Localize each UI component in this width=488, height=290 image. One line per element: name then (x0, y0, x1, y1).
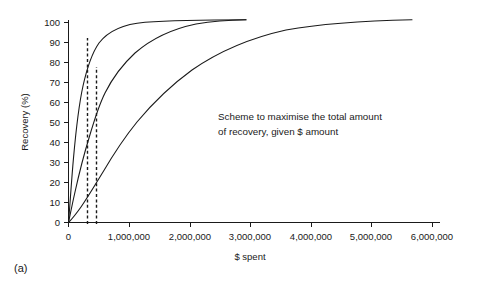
y-tick-label-20: 20 (49, 177, 60, 188)
y-tick-label-40: 40 (49, 137, 60, 148)
y-axis-title: Recovery (%) (19, 93, 30, 151)
y-tick-label-60: 60 (49, 97, 60, 108)
recovery-vs-spend-chart: 0 10 20 30 40 50 60 70 80 90 100 Recover… (0, 0, 488, 290)
panel-label: (a) (14, 262, 27, 274)
y-tick-label-30: 30 (49, 157, 60, 168)
y-tick-label-80: 80 (49, 57, 60, 68)
x-tick-label-4m: 4,000,000 (290, 231, 332, 242)
figure-container: 0 10 20 30 40 50 60 70 80 90 100 Recover… (0, 0, 488, 290)
x-tick-label-1m: 1,000,000 (108, 231, 150, 242)
x-axis-ticks (69, 223, 433, 228)
y-tick-label-100: 100 (44, 17, 60, 28)
y-tick-label-10: 10 (49, 197, 60, 208)
y-tick-label-70: 70 (49, 77, 60, 88)
x-tick-label-5m: 5,000,000 (350, 231, 392, 242)
y-tick-label-50: 50 (49, 117, 60, 128)
x-axis-tick-labels: 0 1,000,000 2,000,000 3,000,000 4,000,00… (66, 231, 453, 242)
annotation-line-2: of recovery, given $ amount (218, 126, 338, 137)
x-axis-title: $ spent (234, 251, 266, 262)
y-tick-label-0: 0 (55, 217, 60, 228)
scheme-annotation: Scheme to maximise the total amount of r… (218, 111, 382, 137)
x-tick-label-2m: 2,000,000 (169, 231, 211, 242)
x-tick-label-0: 0 (66, 231, 71, 242)
y-axis-ticks (64, 23, 69, 223)
y-axis-tick-labels: 0 10 20 30 40 50 60 70 80 90 100 (44, 17, 60, 228)
annotation-line-1: Scheme to maximise the total amount (218, 111, 382, 122)
x-tick-label-3m: 3,000,000 (229, 231, 271, 242)
y-tick-label-90: 90 (49, 37, 60, 48)
x-tick-label-6m: 6,000,000 (411, 231, 453, 242)
